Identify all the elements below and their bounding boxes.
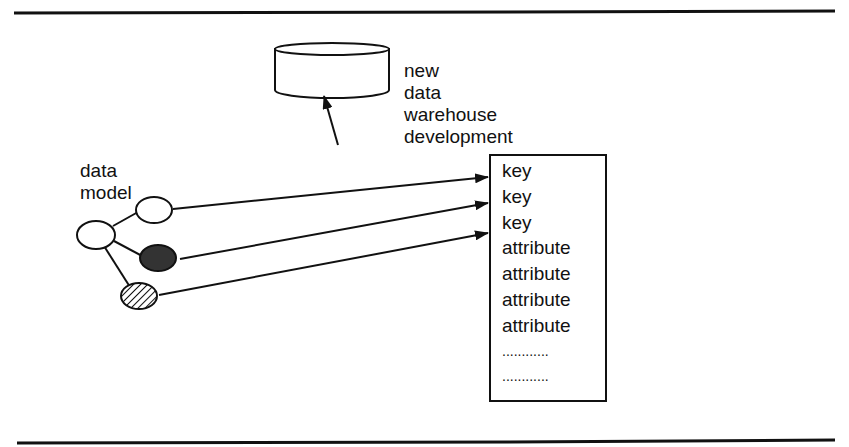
entity-child-3-hatched <box>121 283 157 309</box>
data-model-label: data model <box>80 160 132 204</box>
database-cylinder-icon <box>275 43 389 98</box>
field-key: key <box>502 158 571 184</box>
field-attribute: attribute <box>502 261 571 287</box>
data-model-tree <box>77 197 176 309</box>
field-attribute: attribute <box>502 235 571 261</box>
entity-child-2-filled <box>140 245 176 271</box>
entity-child-1 <box>136 197 172 223</box>
bottom-rule <box>17 442 510 443</box>
warehouse-label: new data warehouse development <box>404 60 513 148</box>
record-fields: key key key attribute attribute attribut… <box>502 158 571 390</box>
arrow-entity2-to-key2 <box>180 203 488 259</box>
top-rule <box>14 12 508 13</box>
arrow-entity1-to-key1 <box>173 177 488 209</box>
field-key: key <box>502 184 571 210</box>
field-attribute: attribute <box>502 313 571 339</box>
field-key: key <box>502 210 571 236</box>
field-ellipsis: ............ <box>502 339 571 365</box>
field-ellipsis: ............ <box>502 364 571 390</box>
entity-root <box>77 221 115 249</box>
field-attribute: attribute <box>502 287 571 313</box>
arrow-record-to-warehouse <box>324 96 338 145</box>
arrow-entity3-to-key3 <box>159 233 488 295</box>
